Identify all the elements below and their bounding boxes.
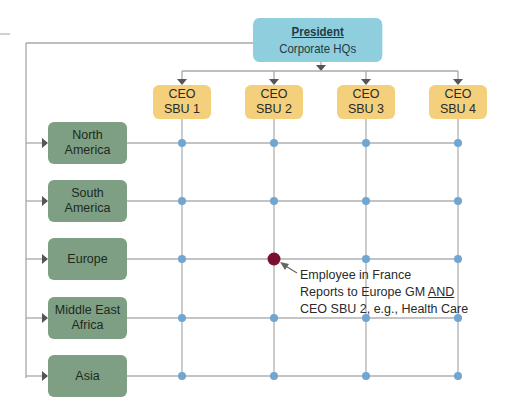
region-label: Middle East — [55, 303, 120, 318]
sbu-label: SBU 1 — [164, 102, 200, 117]
region-label: North — [72, 128, 103, 143]
ceo-sbu-3-box: CEO SBU 3 — [337, 85, 395, 119]
employee-callout: Employee in France Reports to Europe GM … — [300, 267, 468, 318]
region-label: Africa — [72, 318, 104, 333]
region-label: America — [65, 201, 111, 216]
region-label: South — [71, 186, 104, 201]
ceo-label: CEO — [260, 87, 287, 102]
region-asia: Asia — [48, 355, 127, 397]
callout-line-1: Employee in France — [300, 267, 468, 284]
ceo-sbu-2-box: CEO SBU 2 — [245, 85, 303, 119]
employee-node — [268, 253, 281, 266]
sbu-label: SBU 2 — [256, 102, 292, 117]
ceo-label: CEO — [444, 87, 471, 102]
president-title: President — [292, 23, 344, 40]
region-middle-east-africa: Middle East Africa — [48, 297, 127, 339]
region-south-america: South America — [48, 180, 127, 222]
sbu-label: SBU 3 — [348, 102, 384, 117]
ceo-sbu-1-box: CEO SBU 1 — [153, 85, 211, 119]
region-north-america: North America — [48, 122, 127, 164]
callout-line-2: Reports to Europe GM AND — [300, 284, 468, 301]
region-label: Asia — [75, 369, 99, 384]
ceo-label: CEO — [168, 87, 195, 102]
president-subtitle: Corporate HQs — [279, 40, 356, 57]
region-label: Europe — [67, 252, 107, 267]
callout-line-3: CEO SBU 2, e.g., Health Care — [300, 301, 468, 318]
ceo-label: CEO — [352, 87, 379, 102]
region-europe: Europe — [48, 238, 127, 280]
ceo-sbu-4-box: CEO SBU 4 — [429, 85, 487, 119]
sbu-label: SBU 4 — [440, 102, 476, 117]
region-label: America — [65, 143, 111, 158]
president-box: President Corporate HQs — [253, 18, 382, 62]
